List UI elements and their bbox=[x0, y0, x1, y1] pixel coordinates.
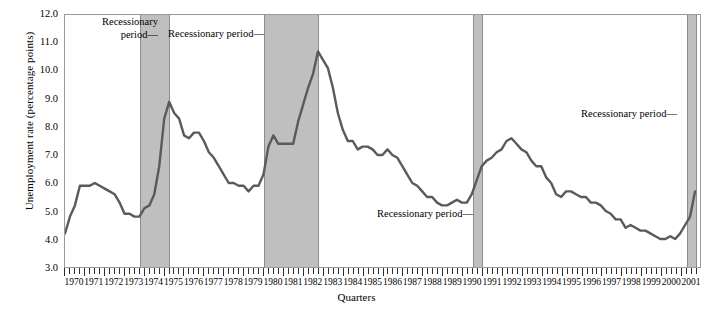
x-tick bbox=[358, 268, 359, 274]
y-tick-label: 4.0 bbox=[24, 235, 58, 245]
x-tick bbox=[119, 268, 120, 274]
annotation-recessionary-period-4: Recessionary period— bbox=[581, 108, 677, 121]
y-tick-label: 11.0 bbox=[24, 37, 58, 47]
annotation-recessionary-period-2: Recessionary period— bbox=[168, 28, 264, 41]
x-tick bbox=[502, 268, 503, 276]
x-tick bbox=[402, 268, 403, 276]
x-tick bbox=[383, 268, 384, 276]
x-tick bbox=[238, 268, 239, 274]
year-label: 1981 bbox=[283, 277, 302, 287]
y-tick-label: 12.0 bbox=[24, 9, 58, 19]
x-tick bbox=[641, 268, 642, 276]
x-tick bbox=[178, 268, 179, 274]
x-tick bbox=[308, 268, 309, 274]
x-tick bbox=[278, 268, 279, 274]
x-tick bbox=[422, 268, 423, 276]
year-label: 1988 bbox=[423, 277, 442, 287]
y-axis-tick-labels: 12.011.010.09.08.07.06.05.04.03.0 bbox=[24, 0, 58, 310]
x-tick bbox=[328, 268, 329, 274]
year-label: 1999 bbox=[642, 277, 661, 287]
year-label: 1976 bbox=[184, 277, 203, 287]
x-tick bbox=[144, 268, 145, 276]
x-tick bbox=[94, 268, 95, 274]
x-tick bbox=[363, 268, 364, 276]
year-label: 2000 bbox=[662, 277, 681, 287]
y-tick-label: 6.0 bbox=[24, 178, 58, 188]
x-tick bbox=[373, 268, 374, 274]
x-tick bbox=[592, 268, 593, 274]
x-tick bbox=[74, 268, 75, 274]
x-tick bbox=[353, 268, 354, 274]
year-label: 1972 bbox=[104, 277, 123, 287]
x-tick bbox=[696, 268, 697, 274]
x-tick bbox=[323, 268, 324, 276]
year-label: 1986 bbox=[383, 277, 402, 287]
x-tick bbox=[338, 268, 339, 274]
year-label: 1997 bbox=[602, 277, 621, 287]
x-tick bbox=[114, 268, 115, 274]
x-tick bbox=[268, 268, 269, 274]
x-tick bbox=[681, 268, 682, 276]
year-label: 1990 bbox=[463, 277, 482, 287]
x-tick bbox=[646, 268, 647, 274]
year-label: 1995 bbox=[562, 277, 581, 287]
x-tick bbox=[293, 268, 294, 274]
x-tick bbox=[686, 268, 687, 274]
x-tick bbox=[537, 268, 538, 274]
year-label: 1994 bbox=[542, 277, 561, 287]
x-tick bbox=[203, 268, 204, 276]
year-label: 2001 bbox=[682, 277, 701, 287]
x-tick bbox=[507, 268, 508, 274]
annotation-1-line-1: Recessionary bbox=[102, 16, 158, 27]
x-tick bbox=[258, 268, 259, 274]
x-tick bbox=[134, 268, 135, 274]
x-tick bbox=[283, 268, 284, 276]
x-tick bbox=[188, 268, 189, 274]
year-label: 1975 bbox=[164, 277, 183, 287]
chart-container: Unemployment rate (percentage points) Qu… bbox=[0, 0, 713, 310]
x-tick bbox=[626, 268, 627, 274]
year-label: 1993 bbox=[522, 277, 541, 287]
x-tick bbox=[303, 268, 304, 276]
y-tick-label: 3.0 bbox=[24, 263, 58, 273]
year-label: 1979 bbox=[244, 277, 263, 287]
x-tick bbox=[557, 268, 558, 274]
x-tick bbox=[223, 268, 224, 276]
x-tick bbox=[397, 268, 398, 274]
x-tick bbox=[318, 268, 319, 274]
x-tick bbox=[577, 268, 578, 274]
x-tick bbox=[164, 268, 165, 276]
x-tick bbox=[532, 268, 533, 274]
x-tick bbox=[129, 268, 130, 274]
year-label: 1973 bbox=[124, 277, 143, 287]
year-label: 1989 bbox=[443, 277, 462, 287]
x-tick bbox=[154, 268, 155, 274]
x-tick bbox=[253, 268, 254, 274]
year-label: 1977 bbox=[204, 277, 223, 287]
x-tick bbox=[636, 268, 637, 274]
x-tick bbox=[552, 268, 553, 274]
x-tick bbox=[482, 268, 483, 276]
x-axis-title: Quarters bbox=[0, 291, 713, 303]
x-tick bbox=[661, 268, 662, 276]
unemployment-line-series bbox=[65, 15, 700, 267]
x-tick bbox=[621, 268, 622, 276]
x-tick bbox=[512, 268, 513, 274]
x-tick bbox=[457, 268, 458, 274]
x-tick bbox=[437, 268, 438, 274]
x-tick bbox=[387, 268, 388, 274]
x-tick bbox=[208, 268, 209, 274]
x-tick bbox=[442, 268, 443, 276]
x-tick bbox=[378, 268, 379, 274]
year-label: 1987 bbox=[403, 277, 422, 287]
x-tick bbox=[159, 268, 160, 274]
x-tick bbox=[183, 268, 184, 276]
x-tick bbox=[248, 268, 249, 274]
x-tick bbox=[567, 268, 568, 274]
x-tick bbox=[616, 268, 617, 274]
year-label: 1996 bbox=[582, 277, 601, 287]
x-tick bbox=[487, 268, 488, 274]
x-tick bbox=[656, 268, 657, 274]
year-label: 1982 bbox=[303, 277, 322, 287]
year-label: 1991 bbox=[482, 277, 501, 287]
